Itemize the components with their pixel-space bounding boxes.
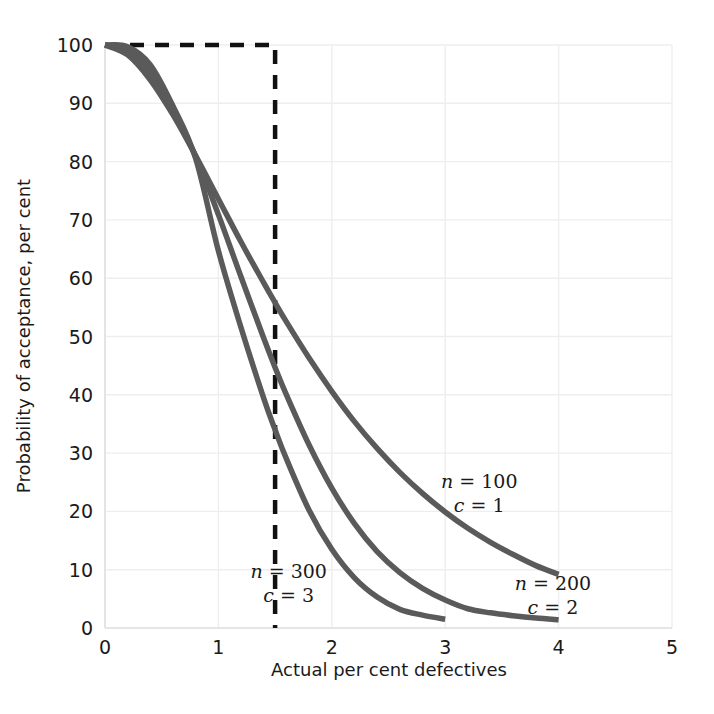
y-tick-label: 0 bbox=[81, 617, 93, 639]
y-tick-label: 60 bbox=[69, 267, 93, 289]
y-tick-label: 80 bbox=[69, 151, 93, 173]
x-tick-label: 2 bbox=[326, 636, 338, 658]
x-tick-label: 1 bbox=[212, 636, 224, 658]
y-tick-label: 30 bbox=[69, 442, 93, 464]
x-axis-title: Actual per cent defectives bbox=[271, 659, 507, 680]
curve-annotation-label: n = 200 bbox=[515, 572, 592, 594]
y-tick-label: 90 bbox=[69, 92, 93, 114]
curve-annotation-label: c = 2 bbox=[528, 596, 579, 618]
y-tick-label: 40 bbox=[69, 384, 93, 406]
y-tick-label: 10 bbox=[69, 559, 93, 581]
y-axis-title: Probability of acceptance, per cent bbox=[13, 179, 34, 493]
curve-annotation-label: c = 3 bbox=[263, 584, 314, 606]
x-tick-label: 5 bbox=[666, 636, 678, 658]
y-tick-label: 50 bbox=[69, 326, 93, 348]
oc-curve-chart: 012345 0102030405060708090100 n = 100c =… bbox=[0, 0, 714, 714]
x-tick-label: 4 bbox=[553, 636, 565, 658]
curve-annotation-label: c = 1 bbox=[454, 494, 505, 516]
curve-annotation-label: n = 100 bbox=[441, 470, 518, 492]
chart-background bbox=[0, 0, 714, 714]
y-tick-label: 100 bbox=[57, 34, 93, 56]
x-tick-label: 0 bbox=[99, 636, 111, 658]
curve-annotation-label: n = 300 bbox=[250, 560, 327, 582]
x-tick-label: 3 bbox=[439, 636, 451, 658]
y-tick-label: 70 bbox=[69, 209, 93, 231]
y-tick-label: 20 bbox=[69, 500, 93, 522]
chart-container: 012345 0102030405060708090100 n = 100c =… bbox=[0, 0, 714, 714]
